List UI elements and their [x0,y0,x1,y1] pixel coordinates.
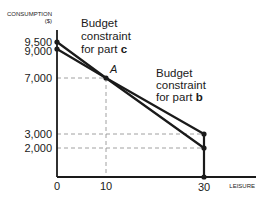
point-30-0 [201,174,206,179]
y-tick-7000: 7,000 [24,72,52,84]
y-tick-2000: 2,000 [24,142,52,154]
point-a [103,75,108,80]
annotation-part-c-line1: Budget [81,17,118,29]
y-tick-9000: 9,000 [24,45,52,57]
y-axis-unit: ($) [45,18,52,24]
point-a-label: A [109,63,117,75]
budget-constraint-chart: CONSUMPTION ($) 9,500 9,000 7,000 3,000 … [0,0,265,201]
point-9000 [54,46,59,51]
x-tick-30: 30 [198,181,210,193]
annotation-part-c-line2: constraint [81,30,132,42]
point-30-2000 [201,145,206,150]
x-tick-0: 0 [54,180,60,192]
x-axis-title: LEISURE [229,183,255,189]
point-9500 [54,39,59,44]
annotation-part-b-line1: Budget [156,67,193,79]
point-30-3000 [201,131,206,136]
annotation-part-b-line2: constraint [156,79,207,91]
annotation-part-c-line3: for part c [81,43,128,55]
y-axis-title: CONSUMPTION [7,11,52,17]
x-tick-10: 10 [100,180,112,192]
y-tick-3000: 3,000 [24,128,52,140]
annotation-part-b-line3: for part b [156,91,203,103]
